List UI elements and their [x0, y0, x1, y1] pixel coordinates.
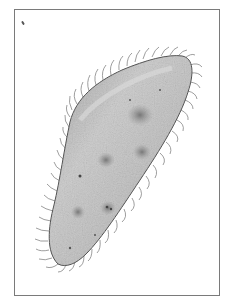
paramecium-illustration: [0, 0, 230, 300]
